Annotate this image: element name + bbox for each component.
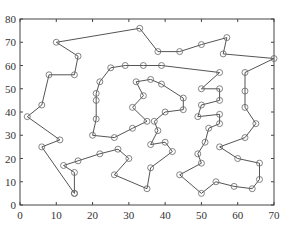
x-tick-label: 30 bbox=[123, 209, 135, 221]
y-tick-label: 60 bbox=[5, 60, 17, 72]
x-tick-label: 60 bbox=[232, 209, 244, 221]
x-tick-label: 40 bbox=[160, 209, 172, 221]
x-tick-label: 10 bbox=[51, 209, 63, 221]
x-tick-label: 0 bbox=[17, 209, 23, 221]
x-tick-label: 20 bbox=[87, 209, 99, 221]
y-tick-label: 50 bbox=[5, 83, 17, 95]
y-tick-label: 30 bbox=[5, 129, 17, 141]
y-tick-label: 0 bbox=[11, 199, 17, 211]
y-tick-label: 10 bbox=[5, 176, 17, 188]
x-tick-label: 70 bbox=[269, 209, 281, 221]
x-tick-label: 50 bbox=[196, 209, 208, 221]
y-tick-label: 20 bbox=[5, 153, 17, 165]
plot-frame bbox=[20, 19, 274, 205]
y-tick-label: 80 bbox=[5, 13, 17, 25]
y-tick-label: 40 bbox=[5, 106, 17, 118]
y-tick-label: 70 bbox=[5, 36, 17, 48]
route-path bbox=[24, 25, 277, 196]
route-chart: 01020304050607001020304050607080 bbox=[0, 0, 280, 242]
